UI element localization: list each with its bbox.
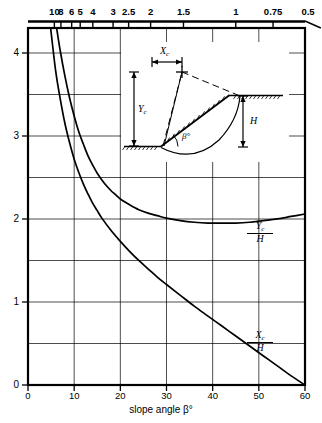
y-tick-label-4: 4 <box>2 48 19 58</box>
curve-label-xc-over-h: Xc H <box>247 330 273 354</box>
inset-label-beta: β° <box>182 131 190 141</box>
y-tick-label-2: 2 <box>2 214 19 224</box>
x-tick-label-60: 60 <box>295 391 315 401</box>
curve-label-yc-over-h: Yc H <box>247 221 273 245</box>
y-tick-label-1: 1 <box>2 297 19 307</box>
x-axis-title: slope angle β° <box>0 404 322 415</box>
y-tick-label-3: 3 <box>2 131 19 141</box>
top-tick-label-8: 8 <box>56 7 66 16</box>
top-tick-label-5: 5 <box>75 7 85 16</box>
chart-plot-area <box>0 0 322 423</box>
x-tick-label-0: 0 <box>18 391 38 401</box>
chart-figure: 10 8 6 5 4 3 2.5 2 1.5 1 0.75 0.5 4 3 2 … <box>0 0 322 423</box>
curve-label-yc-denominator: H <box>247 233 273 245</box>
x-tick-label-30: 30 <box>157 391 177 401</box>
top-tick-label-0p5: 0.5 <box>297 7 319 16</box>
top-tick-label-1p5: 1.5 <box>175 7 193 16</box>
curve-label-yc-numerator: Yc <box>247 221 273 233</box>
inset-label-yc: Yc <box>138 104 147 117</box>
top-tick-label-2: 2 <box>146 7 156 16</box>
inset-label-h: H <box>250 116 257 126</box>
slope-stability-inset <box>121 42 289 162</box>
top-tick-label-1: 1 <box>231 7 241 16</box>
top-tick-label-2p5: 2.5 <box>120 7 138 16</box>
top-tick-label-4: 4 <box>88 7 98 16</box>
inset-background <box>121 42 289 162</box>
inset-label-xc: Xc <box>160 46 169 59</box>
top-tick-label-0p75: 0.75 <box>262 7 284 16</box>
curve-label-xc-numerator: Xc <box>247 330 273 342</box>
y-tick-label-0: 0 <box>2 380 19 390</box>
x-tick-label-50: 50 <box>249 391 269 401</box>
top-tick-label-3: 3 <box>108 7 118 16</box>
curve-label-xc-denominator: H <box>247 342 273 354</box>
x-tick-label-40: 40 <box>203 391 223 401</box>
x-tick-label-20: 20 <box>110 391 130 401</box>
x-tick-label-10: 10 <box>64 391 84 401</box>
